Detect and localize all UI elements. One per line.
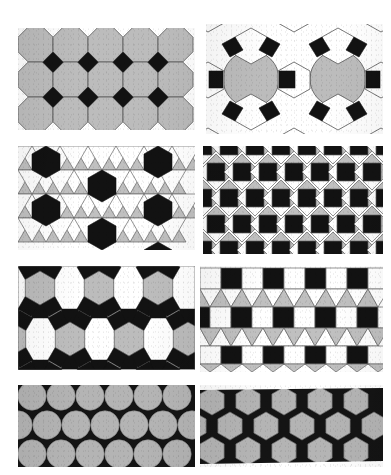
- snub-cell-group: [203, 146, 383, 254]
- circle-packing-svg: [18, 385, 195, 467]
- panel-rhombitrihexagonal-tiling: [18, 266, 195, 370]
- triangle-band-1: [200, 289, 383, 307]
- tiling-3-6-3-6-svg: [200, 385, 383, 467]
- panel-elongated-triangular-tiling: [200, 266, 383, 372]
- octagon-group: [18, 28, 193, 130]
- tiling-4-6-12-svg: [206, 24, 383, 134]
- square-band-2: [200, 307, 383, 328]
- panel-snub-square-tiling: [203, 146, 383, 254]
- panel-truncated-trihexagonal-tiling: [206, 24, 383, 134]
- tiling-4-8-8-svg: [18, 28, 195, 130]
- panel-trihexagonal-tiling: [200, 385, 383, 467]
- square-band-3: [200, 346, 383, 364]
- triangle-band-3: [200, 364, 383, 372]
- tiling-3-3-3-3-6-svg: [18, 146, 195, 250]
- circle-group: [18, 385, 195, 467]
- triangle-band-2: [200, 328, 383, 346]
- tiling-3-4-6-4-svg: [18, 266, 195, 370]
- panel-snub-trihexagonal-tiling: [18, 146, 195, 250]
- tiling-3-3-3-4-4-svg: [200, 266, 383, 372]
- tiling-3-3-4-3-4-svg: [203, 146, 383, 254]
- square-band-1: [200, 268, 383, 289]
- tiling-plate: [0, 0, 391, 475]
- panel-hexagonal-circle-packing: [18, 385, 195, 467]
- panel-truncated-square-tiling: [18, 28, 195, 130]
